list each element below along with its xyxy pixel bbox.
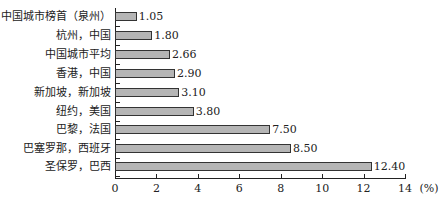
x-tick [239,174,240,178]
bar [115,125,270,134]
bar [115,107,194,116]
value-label: 1.05 [139,11,164,23]
value-label: 3.80 [196,106,221,118]
value-label: 2.66 [172,49,197,61]
y-tick [116,64,120,65]
y-tick [116,139,120,140]
bar [115,144,291,153]
bar [115,69,175,78]
horizontal-bar-chart: 中国城市榜首（泉州）1.05杭州，中国1.80中国城市平均2.66香港，中国2.… [0,0,443,214]
y-tick [116,121,120,122]
category-label: 香港，中国 [56,68,111,80]
x-tick-label: 0 [112,183,119,195]
value-label: 2.90 [177,68,202,80]
x-axis [115,178,406,179]
x-tick-label: 10 [315,183,329,195]
x-tick-label: 2 [153,183,160,195]
category-label: 中国城市平均 [45,49,111,61]
x-tick [364,174,365,178]
y-tick [116,176,120,177]
y-tick [116,45,120,46]
category-label: 中国城市榜首（泉州） [1,11,111,23]
bar [115,88,179,97]
value-label: 3.10 [181,87,206,99]
y-tick [116,26,120,27]
bar [115,162,372,171]
y-tick [116,102,120,103]
x-tick-label: 6 [236,183,243,195]
value-label: 8.50 [293,143,318,155]
x-tick [198,174,199,178]
x-tick-label: 14 [398,183,412,195]
category-label: 巴塞罗那，西班牙 [23,143,111,155]
category-label: 纽约，美国 [56,106,111,118]
category-label: 巴黎，法国 [56,124,111,136]
value-label: 7.50 [272,124,297,136]
y-tick [116,83,120,84]
value-label: 12.40 [374,161,406,173]
x-tick [156,174,157,178]
x-tick-label: 12 [357,183,371,195]
value-label: 1.80 [154,30,179,42]
category-label: 圣保罗，巴西 [45,161,111,173]
bar [115,12,137,21]
x-tick [405,174,406,178]
y-tick [116,158,120,159]
x-tick [322,174,323,178]
x-tick [281,174,282,178]
x-axis-unit: (%) [419,183,438,195]
category-label: 杭州，中国 [56,30,111,42]
x-tick-label: 4 [194,183,201,195]
x-tick-label: 8 [277,183,284,195]
bar [115,31,152,40]
bar [115,50,170,59]
category-label: 新加坡，新加坡 [34,87,111,99]
